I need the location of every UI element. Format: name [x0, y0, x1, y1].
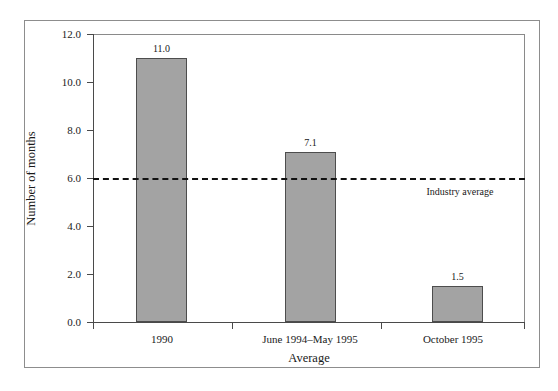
bar-value-label-june-1994-may-1995: 7.1 [275, 138, 346, 148]
figure-bar-chart: 12.0 10.0 8.0 6.0 4.0 2.0 0.0 11.0 7.1 1… [0, 0, 558, 391]
y-axis-title: Number of months [25, 117, 38, 241]
x-category-label-october-1995: October 1995 [393, 333, 513, 345]
y-tick-label-6: 6.0 [48, 173, 81, 184]
industry-average-label: Industry average [400, 186, 520, 197]
y-tick-label-10: 10.0 [48, 77, 81, 88]
y-tick-8 [87, 130, 94, 131]
x-category-label-june-1994-may-1995: June 1994–May 1995 [240, 333, 380, 345]
y-tick-label-4: 4.0 [48, 221, 81, 232]
x-tick-start [93, 322, 94, 329]
x-category-label-1990: 1990 [117, 333, 207, 345]
bar-value-label-october-1995: 1.5 [422, 272, 493, 282]
y-tick-2 [87, 274, 94, 275]
y-tick-label-8: 8.0 [48, 125, 81, 136]
plot-top-spine [93, 34, 525, 35]
x-axis-line [93, 322, 525, 323]
x-tick-2 [381, 322, 382, 329]
x-tick-1 [232, 322, 233, 329]
x-axis-title: Average [213, 352, 405, 365]
y-tick-10 [87, 82, 94, 83]
x-tick-end [524, 322, 525, 329]
industry-average-dashed-line [93, 178, 525, 180]
bar-value-label-1990: 11.0 [126, 44, 197, 54]
bar-1990[interactable] [136, 58, 187, 322]
y-tick-12 [87, 34, 94, 35]
y-tick-4 [87, 226, 94, 227]
bar-october-1995[interactable] [432, 286, 483, 322]
y-tick-label-0: 0.0 [48, 317, 81, 328]
y-tick-label-12: 12.0 [48, 29, 81, 40]
y-tick-label-2: 2.0 [48, 269, 81, 280]
